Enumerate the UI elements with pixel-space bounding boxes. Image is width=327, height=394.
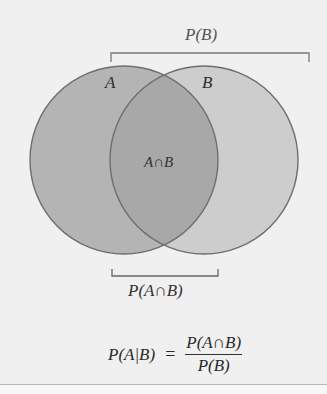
p-a-and-b-bracket <box>112 269 218 276</box>
formula-lhs: P(A|B) <box>108 345 155 365</box>
set-a-label: A <box>105 73 115 93</box>
formula-equals: = <box>165 344 175 365</box>
p-b-bracket <box>111 53 309 62</box>
formula-fraction: P(A∩B) P(B) <box>185 333 242 376</box>
bottom-strip <box>0 385 327 394</box>
intersection-label: A∩B <box>144 154 173 171</box>
formula-denominator: P(B) <box>198 355 230 376</box>
set-b-label: B <box>202 73 212 93</box>
conditional-probability-formula: P(A|B) = P(A∩B) P(B) <box>108 333 242 376</box>
formula-numerator: P(A∩B) <box>185 333 242 355</box>
p-a-and-b-label: P(A∩B) <box>128 281 183 301</box>
p-b-label: P(B) <box>185 25 217 45</box>
